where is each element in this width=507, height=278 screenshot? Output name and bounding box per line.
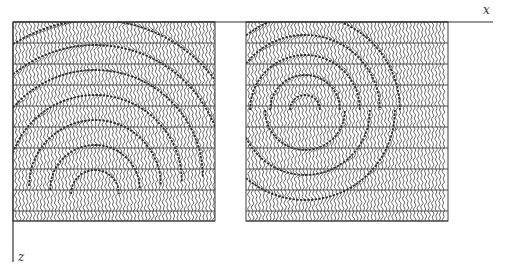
x-axis-label: x — [483, 3, 490, 17]
z-axis-label: z — [18, 250, 24, 264]
panel-right — [246, 15, 448, 221]
seismic-figure — [0, 0, 507, 278]
panel-left — [13, 20, 217, 221]
panels — [13, 15, 448, 221]
